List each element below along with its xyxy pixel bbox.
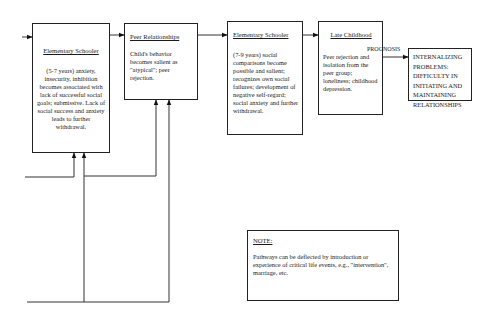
box-title: Peer Relationships (130, 33, 193, 41)
box-body: Child's behavior becomes salient as "aty… (130, 50, 193, 82)
box-title: Elementary Schooler (36, 47, 106, 55)
box-body: Peer rejection and isolation from the pe… (323, 53, 379, 93)
box-body: (5-7 years) anxiety, insecurity, inhibit… (36, 67, 106, 131)
note-body: Pathways can be deflected by introductio… (253, 253, 394, 277)
note-box: NOTE: Pathways can be deflected by intro… (247, 230, 399, 301)
box-elementary-schooler-7-9: Elementary Schooler (7-9 years) social c… (227, 21, 303, 135)
box-title: Elementary Schooler (233, 31, 299, 39)
box-elementary-schooler-5-7: Elementary Schooler (5-7 years) anxiety,… (32, 23, 110, 153)
box-body: INTERNALIZING PROBLEMS: DIFFICULTY IN IN… (413, 52, 469, 109)
box-internalizing-problems: INTERNALIZING PROBLEMS: DIFFICULTY IN IN… (408, 48, 472, 101)
prognosis-label: PROGNOSIS (367, 45, 400, 53)
box-late-childhood: Late Childhood Peer rejection and isolat… (318, 21, 383, 115)
box-peer-relationships: Peer Relationships Child's behavior beco… (124, 23, 198, 100)
box-body: (7-9 years) social comparisons become po… (233, 51, 299, 115)
note-title: NOTE: (253, 237, 394, 245)
box-title: Late Childhood (323, 31, 379, 39)
